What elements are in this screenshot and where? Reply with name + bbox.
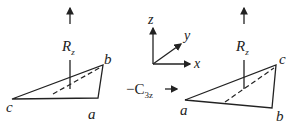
operation-text: −C3z: [126, 81, 153, 100]
diagram-canvas: Rz b c a z y x −C3z Rz c a b: [0, 0, 292, 125]
dashed-median: [225, 68, 274, 102]
coordinate-axes: z y x: [147, 12, 201, 71]
vertex-label-a: a: [88, 106, 96, 122]
vertex-label-b: b: [104, 51, 112, 67]
vertex-label-b: b: [276, 108, 284, 124]
y-axis-arrow-icon: [153, 44, 181, 64]
rotation-label: Rz: [235, 38, 249, 57]
rotation-label: Rz: [61, 38, 75, 57]
left-triangle-group: Rz b c a: [6, 8, 112, 122]
triangle-outline: [12, 65, 103, 99]
vertex-label-c: c: [279, 51, 286, 67]
y-axis-label: y: [182, 28, 191, 43]
x-axis-label: x: [193, 56, 201, 71]
operation-label: −C3z: [126, 81, 177, 100]
symmetry-diagram: Rz b c a z y x −C3z Rz c a b: [0, 0, 292, 125]
vertex-label-a: a: [180, 102, 188, 118]
vertex-label-c: c: [6, 99, 13, 115]
triangle-outline: [185, 65, 276, 108]
z-axis-label: z: [147, 12, 154, 27]
